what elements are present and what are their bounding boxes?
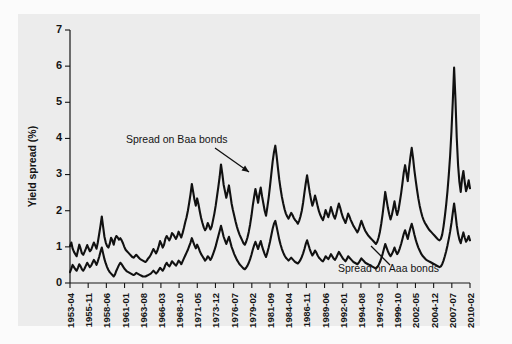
y-axis-title: Yield spread (%) [26, 126, 38, 207]
x-tick-label: 1989-06 [320, 293, 331, 328]
y-tick-label: 1 [56, 240, 62, 252]
x-tick-label: 1966-03 [156, 293, 167, 328]
x-tick-label: 1997-03 [374, 293, 385, 328]
annotation-label: Spread on Baa bonds [126, 133, 228, 145]
y-axis: 01234567 [56, 23, 70, 288]
data-series-group [70, 68, 470, 277]
x-axis: 1953-041955-111958-061961-011963-081966-… [65, 283, 476, 328]
x-tick-label: 1958-06 [101, 293, 112, 328]
x-tick-label: 2007-07 [447, 293, 458, 328]
y-axis-title-group: Yield spread (%) [26, 126, 38, 207]
x-tick-label: 1961-01 [120, 292, 131, 328]
x-tick-label: 1971-05 [192, 292, 203, 328]
x-tick-label: 1986-11 [301, 292, 312, 327]
y-tick-label: 0 [56, 276, 62, 288]
x-tick-label: 2010-02 [465, 293, 476, 328]
x-tick-label: 2002-05 [410, 292, 421, 328]
x-tick-label: 1968-10 [174, 293, 185, 328]
y-tick-label: 3 [56, 167, 62, 179]
annotation-arrowhead [241, 165, 249, 172]
x-tick-label: 1953-04 [65, 292, 76, 328]
x-tick-label: 1992-01 [338, 292, 349, 328]
x-tick-label: 1994-08 [356, 293, 367, 328]
x-tick-label: 2004-12 [429, 293, 440, 328]
x-tick-label: 1976-07 [229, 293, 240, 328]
y-tick-label: 2 [56, 204, 62, 216]
y-tick-label: 6 [56, 59, 62, 71]
x-tick-label: 1979-02 [247, 293, 258, 328]
x-tick-label: 1973-12 [210, 293, 221, 328]
figure-container: 01234567 1953-041955-111958-061961-01196… [0, 0, 512, 344]
y-tick-label: 5 [56, 95, 62, 107]
x-tick-label: 1963-08 [138, 293, 149, 328]
y-tick-label: 7 [56, 23, 62, 35]
y-tick-label: 4 [56, 131, 63, 143]
x-tick-label: 1955-11 [83, 292, 94, 327]
x-tick-label: 1981-09 [265, 293, 276, 328]
yield-spread-chart: 01234567 1953-041955-111958-061961-01196… [0, 0, 512, 344]
x-tick-label: 1984-04 [283, 292, 294, 328]
x-tick-label: 1999-10 [392, 293, 403, 328]
